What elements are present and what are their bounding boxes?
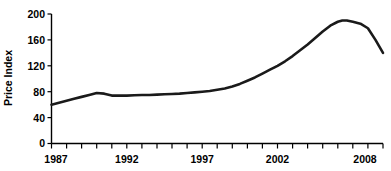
- y-tick-label-120: 120: [27, 60, 45, 72]
- x-tick-label-1997: 1997: [191, 153, 215, 165]
- chart-canvas: Price Index 200 160 120 80 40 0: [0, 0, 391, 171]
- x-tick-marks: [52, 144, 384, 149]
- y-tick-label-200: 200: [27, 8, 45, 20]
- x-tick-label-1992: 1992: [115, 153, 139, 165]
- x-tick-label-1987: 1987: [44, 153, 68, 165]
- price-index-line-chart: Price Index 200 160 120 80 40 0: [0, 0, 391, 171]
- y-axis-title: Price Index: [2, 50, 14, 106]
- price-index-series-line: [52, 20, 384, 104]
- y-tick-label-0: 0: [39, 137, 45, 149]
- x-tick-label-2008: 2008: [353, 153, 377, 165]
- x-tick-label-2002: 2002: [266, 153, 290, 165]
- y-tick-label-80: 80: [33, 86, 45, 98]
- y-tick-label-160: 160: [27, 34, 45, 46]
- y-tick-label-40: 40: [33, 112, 45, 124]
